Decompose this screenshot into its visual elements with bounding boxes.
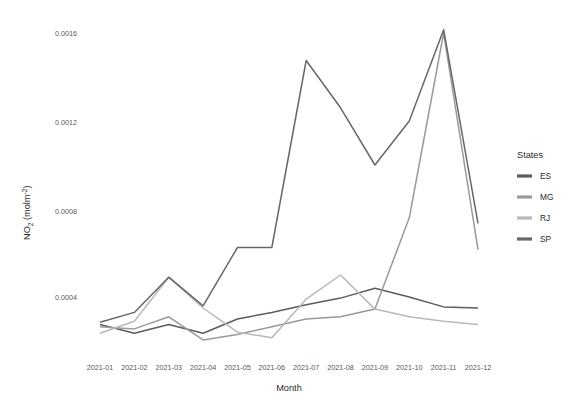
svg-text:NO2 (molm-2): NO2 (molm-2) <box>21 186 34 240</box>
series-lines <box>100 30 478 340</box>
x-tick-label: 2021-02 <box>121 363 147 372</box>
legend-items: ESMGRJSP <box>517 171 554 244</box>
chart-container: 0.0004 0.0008 0.0012 0.0016 NO2 (molm-2)… <box>0 0 578 403</box>
x-axis-tick-labels: 2021-012021-022021-032021-042021-052021-… <box>87 363 491 372</box>
x-tick-label: 2021-07 <box>293 363 319 372</box>
legend-label-es[interactable]: ES <box>540 171 552 181</box>
y-tick-label: 0.0004 <box>55 293 77 302</box>
series-line-es <box>100 288 478 333</box>
series-line-sp <box>100 30 478 323</box>
x-tick-label: 2021-06 <box>259 363 285 372</box>
y-tick-label: 0.0012 <box>55 118 77 127</box>
x-axis-title: Month <box>276 383 302 393</box>
y-axis-title: NO2 (molm-2) <box>21 186 34 240</box>
y-axis-title-no: NO <box>22 226 32 240</box>
x-tick-label: 2021-10 <box>396 363 422 372</box>
y-axis-title-close: ) <box>22 186 32 189</box>
y-axis-tick-labels: 0.0004 0.0008 0.0012 0.0016 <box>55 29 77 302</box>
line-chart: 0.0004 0.0008 0.0012 0.0016 NO2 (molm-2)… <box>0 0 578 403</box>
x-tick-label: 2021-05 <box>224 363 250 372</box>
y-tick-label: 0.0016 <box>55 29 77 38</box>
x-tick-label: 2021-12 <box>465 363 491 372</box>
legend-label-mg[interactable]: MG <box>540 192 554 202</box>
x-tick-label: 2021-11 <box>431 363 457 372</box>
x-tick-label: 2021-04 <box>190 363 216 372</box>
legend-label-sp[interactable]: SP <box>540 234 552 244</box>
x-tick-label: 2021-01 <box>87 363 113 372</box>
y-axis-title-unit: (molm <box>22 194 32 222</box>
legend-title: States <box>517 150 543 160</box>
legend: States ESMGRJSP <box>517 150 554 244</box>
x-tick-label: 2021-03 <box>156 363 182 372</box>
x-tick-label: 2021-09 <box>362 363 388 372</box>
series-line-mg <box>100 33 478 340</box>
legend-label-rj[interactable]: RJ <box>540 213 550 223</box>
y-tick-label: 0.0008 <box>55 207 77 216</box>
x-tick-label: 2021-08 <box>327 363 353 372</box>
